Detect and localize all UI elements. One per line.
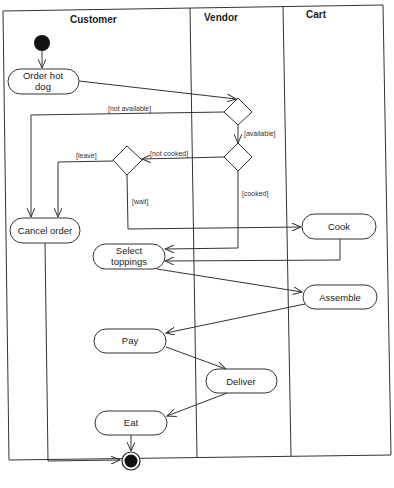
svg-text:Assemble: Assemble [319, 292, 361, 303]
activity-pay: Pay [94, 329, 166, 353]
activity-diagram: Customer Vendor Cart Order hot dog [not … [0, 0, 394, 488]
guard-available: [available] [244, 130, 276, 138]
activity-cancel-order: Cancel order [10, 218, 80, 243]
activity-cook: Cook [302, 214, 376, 239]
lane-title-vendor: Vendor [204, 12, 238, 23]
activity-deliver: Deliver [206, 369, 277, 393]
svg-text:Cancel order: Cancel order [18, 225, 72, 236]
activity-order-hot-dog: Order hot dog [8, 69, 79, 94]
svg-text:toppings: toppings [111, 256, 147, 267]
lane-title-cart: Cart [306, 9, 327, 20]
guard-cooked: [cooked] [242, 190, 269, 198]
cooked-decision [224, 143, 252, 171]
guard-wait: [wait] [132, 198, 148, 206]
svg-text:Eat: Eat [124, 417, 139, 428]
activity-select-toppings: Select toppings [93, 244, 165, 269]
lane-divider-customer-vendor [190, 8, 197, 458]
svg-text:Select: Select [116, 245, 143, 256]
svg-text:Order hot: Order hot [23, 70, 63, 81]
wait-decision [113, 146, 142, 175]
final-node [122, 452, 140, 470]
guard-leave: [leave] [76, 152, 97, 160]
initial-node [34, 35, 50, 51]
guard-not-cooked: [not cooked] [150, 150, 188, 158]
svg-text:Deliver: Deliver [226, 376, 256, 387]
guard-not-available: [not available] [108, 105, 151, 113]
lane-title-customer: Customer [70, 14, 117, 25]
activity-eat: Eat [95, 411, 167, 435]
svg-text:dog: dog [35, 81, 51, 92]
availability-decision [224, 98, 252, 125]
activity-assemble: Assemble [303, 285, 377, 309]
svg-text:Cook: Cook [328, 221, 350, 232]
svg-text:Pay: Pay [122, 335, 139, 346]
lane-divider-vendor-cart [283, 6, 291, 456]
